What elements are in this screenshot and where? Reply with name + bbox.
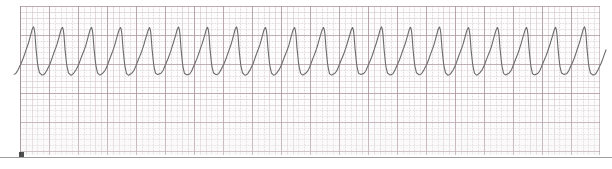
paper-right-edge [599,6,600,155]
ecg-bold-grid [20,6,600,155]
paper-left-edge [20,6,21,155]
ecg-rhythm-strip [0,0,612,169]
ink-speck [19,152,24,157]
scan-edge-line [0,157,612,158]
ecg-graph-paper [20,6,600,155]
